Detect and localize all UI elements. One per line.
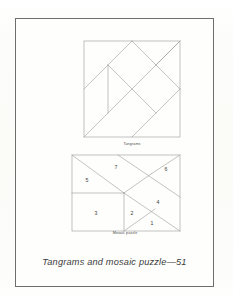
mosaic-line-diag-a1 bbox=[72, 155, 124, 193]
mosaic-caption: Mosaic puzzle bbox=[80, 231, 170, 235]
tangram-figure: Tangrams bbox=[72, 39, 192, 169]
mosaic-piece-label-2: 2 bbox=[131, 210, 134, 216]
page-border-frame: Tangrams bbox=[15, 18, 214, 287]
mosaic-piece-label-4: 4 bbox=[157, 199, 160, 205]
mosaic-piece-label-7: 7 bbox=[115, 164, 118, 170]
mosaic-piece-label-5: 5 bbox=[86, 177, 89, 183]
tangram-caption: Tangrams bbox=[72, 142, 192, 146]
mosaic-line-diag-short-upper bbox=[124, 174, 151, 193]
mosaic-piece-label-6: 6 bbox=[165, 166, 168, 172]
mosaic-puzzle-figure: 1 2 3 4 5 6 7 Mosaic puzzle bbox=[54, 153, 186, 248]
page-caption: Tangrams and mosaic puzzle—51 bbox=[16, 257, 213, 267]
mosaic-puzzle-diagram: 1 2 3 4 5 6 7 bbox=[54, 153, 186, 235]
tangram-diagram bbox=[72, 39, 192, 144]
mosaic-piece-label-3: 3 bbox=[95, 210, 98, 216]
tangram-line-small-upper bbox=[156, 41, 180, 65]
scanned-page: Tangrams bbox=[0, 0, 233, 305]
mosaic-piece-label-1: 1 bbox=[151, 220, 154, 226]
